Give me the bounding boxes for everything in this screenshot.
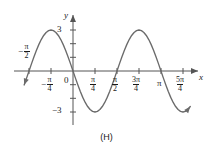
x-tick-label-pi-2: π 2: [112, 76, 118, 94]
x-tick-label-neg-pi-4: − π 4: [41, 76, 53, 94]
y-tick-label-neg3: −3: [52, 106, 62, 115]
curve-left-arrow-icon: [24, 78, 29, 85]
x-axis-arrow-icon: [191, 68, 198, 74]
x-tick-label-3pi-4: 3π 4: [131, 76, 141, 94]
x-tick-label-zero: 0: [64, 76, 69, 85]
figure-caption: (H): [0, 132, 213, 142]
y-axis-label: y: [64, 11, 68, 20]
x-tick-label-neg-pi-2: − π 2: [18, 43, 30, 61]
x-tick-label-pi-4: π 4: [90, 76, 96, 94]
x-tick-label-5pi-4: 5π 4: [175, 76, 185, 94]
curve-right-arrow-icon: [184, 107, 190, 114]
minus-sign: −: [18, 47, 23, 56]
x-axis-label: x: [199, 73, 203, 82]
y-axis-arrow-icon: [70, 15, 76, 22]
trig-graph-figure: y x 3 −3 − π 2 − π 4 0 π 4 π: [0, 0, 213, 151]
y-tick-label-3: 3: [57, 25, 62, 34]
x-tick-label-pi: π: [157, 79, 162, 88]
minus-sign: −: [41, 80, 46, 89]
